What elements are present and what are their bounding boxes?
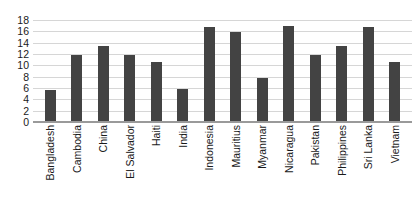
x-axis-label-slot: India [170,123,197,199]
bar[interactable] [98,46,109,123]
x-axis-tick-label: Haiti [151,125,162,146]
y-axis-tick-label: 2 [23,105,29,116]
x-axis-label-slot: Philippines [329,123,356,199]
x-axis-label-slot: Myanmar [249,123,276,199]
x-axis-tick-label: India [178,125,189,148]
bar-slot [382,20,409,122]
x-axis-tick-label: Cambodia [72,125,83,173]
x-axis-tick-label: Nicaragua [284,125,295,173]
y-axis-tick-label: 14 [17,37,29,48]
x-axis-tick-label: El Salvador [125,125,136,179]
plot-area [33,20,412,122]
x-axis-tick-label: Mauritius [231,125,242,168]
bar[interactable] [177,89,188,122]
bar-slot [355,20,382,122]
x-axis-label-slot: Pakistan [302,123,329,199]
bar-slot [64,20,91,122]
x-axis-tick-label: Bangladesh [45,125,56,180]
x-axis-tick-label: Myanmar [257,125,268,169]
bar-slot [329,20,356,122]
bar-slot [302,20,329,122]
bar-slot [90,20,117,122]
y-axis-tick-label: 18 [17,15,29,26]
x-axis-category-labels: BangladeshCambodiaChinaEl SalvadorHaitiI… [33,123,412,199]
x-axis-label-slot: China [90,123,117,199]
bar[interactable] [336,46,347,123]
x-axis-label-slot: Indonesia [196,123,223,199]
bar-slot [196,20,223,122]
y-axis-tick-label: 4 [23,94,29,105]
x-axis-label-slot: Vietnam [382,123,409,199]
bar[interactable] [363,27,374,122]
x-axis-label-slot: El Salvador [117,123,144,199]
x-axis-tick-label: Philippines [337,125,348,176]
x-axis-label-slot: Cambodia [64,123,91,199]
x-axis-label-slot: Bangladesh [37,123,64,199]
x-axis-tick-label: Vietnam [390,125,401,163]
y-axis-tick-label: 12 [17,49,29,60]
bar[interactable] [257,78,268,122]
bar[interactable] [71,55,82,122]
bar[interactable] [310,55,321,122]
x-axis-label-slot: Haiti [143,123,170,199]
y-axis-tick-label: 6 [23,83,29,94]
bar[interactable] [151,62,162,122]
bar[interactable] [124,55,135,122]
bar[interactable] [283,26,294,122]
bar[interactable] [204,27,215,122]
bar-slot [276,20,303,122]
x-axis-label-slot: Sri Lanka [355,123,382,199]
x-axis-tick-label: Pakistan [310,125,321,165]
y-axis-tick-label: 8 [23,71,29,82]
bar-slot [143,20,170,122]
bar-slot [170,20,197,122]
y-axis: 181614121086420 [0,0,33,199]
x-axis-tick-label: Sri Lanka [363,125,374,169]
bar[interactable] [389,62,400,122]
x-axis-tick-label: Indonesia [204,125,215,171]
y-axis-tick-label: 16 [17,26,29,37]
bar-series [33,20,412,122]
bar-slot [223,20,250,122]
y-axis-tick-label: 10 [17,60,29,71]
bar[interactable] [230,32,241,122]
x-axis-tick-label: China [98,125,109,152]
x-axis-label-slot: Mauritius [223,123,250,199]
bar-chart: 181614121086420 BangladeshCambodiaChinaE… [0,0,418,199]
y-axis-tick-label: 0 [23,117,29,128]
bar-slot [37,20,64,122]
bar[interactable] [45,90,56,122]
x-axis-line [33,121,412,122]
bar-slot [249,20,276,122]
bar-slot [117,20,144,122]
x-axis-label-slot: Nicaragua [276,123,303,199]
